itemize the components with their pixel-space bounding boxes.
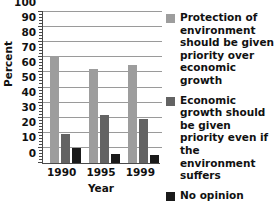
y-axis-tick-label: 90 (21, 11, 36, 22)
y-axis-tick-label: 40 (21, 87, 36, 98)
bar (89, 69, 98, 163)
bar (139, 119, 148, 163)
y-axis-tick-label: 50 (21, 72, 36, 83)
x-axis-tick-label: 1995 (86, 166, 115, 178)
y-axis-tick-label: 100 (14, 0, 36, 7)
legend-label: No opinion (180, 189, 278, 202)
y-axis-tick-label: 80 (21, 26, 36, 37)
chart-legend: Protection of environment should be give… (166, 11, 278, 208)
legend-label: Protection of environment should be give… (180, 11, 278, 87)
x-axis-tick-labels: 199019951999 (42, 166, 160, 180)
bar (61, 134, 70, 163)
bar (128, 65, 137, 163)
bar-group-1990 (43, 12, 82, 163)
plot-area: 0102030405060708090100 (42, 12, 160, 164)
x-axis-tick-label: 1999 (126, 166, 155, 178)
y-axis-tick-label: 60 (21, 57, 36, 68)
y-axis-title: Percent (2, 34, 14, 94)
legend-entry: Protection of environment should be give… (166, 11, 278, 87)
bar-group-1995 (82, 12, 121, 163)
bar-chart-figure: Percent 0102030405060708090100 199019951… (0, 0, 278, 212)
legend-swatch-icon (166, 97, 175, 106)
legend-entry: Economic growth should be given priority… (166, 94, 278, 182)
y-axis-tick-label: 10 (21, 132, 36, 143)
x-axis-title: Year (42, 182, 160, 194)
bar-group-1999 (121, 12, 160, 163)
bar (100, 115, 109, 163)
y-axis-tick-label: 70 (21, 42, 36, 53)
y-axis-tick-label: 0 (29, 147, 36, 158)
bar (111, 154, 120, 163)
legend-swatch-icon (166, 14, 175, 23)
y-axis-tick-label: 30 (21, 102, 36, 113)
bar (72, 148, 81, 163)
legend-swatch-icon (166, 192, 175, 201)
legend-label: Economic growth should be given priority… (180, 94, 278, 182)
y-axis-tick-label: 20 (21, 117, 36, 128)
bar (50, 56, 59, 163)
plot-region: 0102030405060708090100 (42, 12, 160, 164)
x-axis-tick-label: 1990 (47, 166, 76, 178)
legend-entry: No opinion (166, 189, 278, 202)
bar (150, 155, 159, 163)
